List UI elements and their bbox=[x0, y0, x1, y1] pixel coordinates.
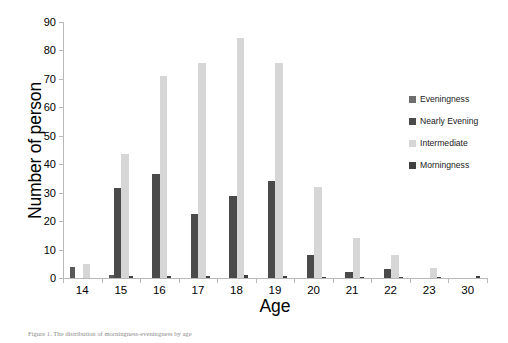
y-axis-tick-label: 30 bbox=[16, 187, 56, 199]
bar-nearly-evening bbox=[268, 181, 276, 278]
x-axis-tick bbox=[371, 278, 372, 283]
legend-item[interactable]: Eveningness bbox=[409, 88, 504, 110]
legend-label: Eveningness bbox=[420, 94, 469, 104]
x-axis-tick-label: 15 bbox=[102, 284, 141, 296]
y-axis-tick-label: 70 bbox=[16, 73, 56, 85]
bar-nearly-evening bbox=[384, 269, 392, 278]
y-axis-tick-label: 20 bbox=[16, 215, 56, 227]
bar-nearly-evening bbox=[345, 272, 353, 278]
bar-nearly-evening bbox=[191, 214, 199, 278]
bar-morningness bbox=[360, 277, 364, 278]
legend-label: Intermediate bbox=[420, 138, 468, 148]
x-axis-tick bbox=[102, 278, 103, 283]
bar-intermediate bbox=[314, 187, 322, 278]
legend-item[interactable]: Intermediate bbox=[409, 132, 504, 154]
bar-morningness bbox=[399, 277, 403, 278]
legend-swatch-icon bbox=[409, 96, 416, 103]
y-axis-tick-label: 50 bbox=[16, 130, 56, 142]
x-axis-tick bbox=[217, 278, 218, 283]
x-axis-tick bbox=[179, 278, 180, 283]
x-axis-tick bbox=[487, 278, 488, 283]
bar-group bbox=[217, 22, 256, 278]
bar-group bbox=[102, 22, 141, 278]
bar-intermediate bbox=[198, 63, 206, 278]
bar-intermediate bbox=[353, 238, 361, 278]
x-axis-tick-label: 22 bbox=[371, 284, 410, 296]
x-axis-tick bbox=[63, 278, 64, 283]
x-axis-tick bbox=[333, 278, 334, 283]
bar-group bbox=[333, 22, 372, 278]
bar-nearly-evening bbox=[229, 196, 237, 278]
x-axis-tick bbox=[448, 278, 449, 283]
y-axis-tick-label: 90 bbox=[16, 16, 56, 28]
bar-group bbox=[63, 22, 102, 278]
legend-swatch-icon bbox=[409, 162, 416, 169]
x-axis-tick-label: 14 bbox=[63, 284, 102, 296]
bar-morningness bbox=[244, 275, 248, 278]
x-axis-tick-label: 20 bbox=[294, 284, 333, 296]
bar-morningness bbox=[206, 276, 210, 278]
y-axis-tick-label: 80 bbox=[16, 44, 56, 56]
x-axis-title: Age bbox=[63, 296, 487, 317]
bar-eveningness bbox=[70, 267, 75, 278]
bar-morningness bbox=[322, 277, 326, 278]
bar-intermediate bbox=[430, 268, 438, 278]
bar-intermediate bbox=[160, 76, 168, 278]
bar-morningness bbox=[129, 276, 133, 278]
figure-caption: Figure 1. The distribution of morningnes… bbox=[28, 330, 448, 341]
x-axis-tick-label: 17 bbox=[179, 284, 218, 296]
x-axis-line bbox=[63, 278, 487, 279]
y-axis-tick-label: 40 bbox=[16, 158, 56, 170]
bar-intermediate bbox=[237, 38, 245, 278]
bar-morningness bbox=[437, 277, 441, 278]
bar-group bbox=[140, 22, 179, 278]
bar-group bbox=[371, 22, 410, 278]
bar-intermediate bbox=[83, 264, 91, 278]
legend-label: Morningness bbox=[420, 160, 469, 170]
chart-legend: EveningnessNearly EveningIntermediateMor… bbox=[409, 88, 504, 176]
x-axis-tick-label: 30 bbox=[448, 284, 487, 296]
bar-intermediate bbox=[121, 154, 129, 278]
legend-label: Nearly Evening bbox=[420, 116, 478, 126]
bar-nearly-evening bbox=[307, 255, 315, 278]
y-axis-tick-label: 10 bbox=[16, 244, 56, 256]
x-axis-tick bbox=[140, 278, 141, 283]
x-axis-tick-label: 23 bbox=[410, 284, 449, 296]
bar-nearly-evening bbox=[114, 188, 122, 278]
chart-figure: Number of person 0102030405060708090 141… bbox=[0, 0, 508, 343]
legend-swatch-icon bbox=[409, 118, 416, 125]
x-axis-tick-label: 19 bbox=[256, 284, 295, 296]
x-axis-tick-label: 18 bbox=[217, 284, 256, 296]
bar-intermediate bbox=[391, 255, 399, 278]
legend-item[interactable]: Morningness bbox=[409, 154, 504, 176]
bar-group bbox=[179, 22, 218, 278]
bar-morningness bbox=[167, 276, 171, 278]
x-axis-tick-label: 16 bbox=[140, 284, 179, 296]
bar-group bbox=[294, 22, 333, 278]
y-axis-tick-label: 0 bbox=[16, 272, 56, 284]
bar-group bbox=[256, 22, 295, 278]
legend-swatch-icon bbox=[409, 140, 416, 147]
x-axis-tick bbox=[294, 278, 295, 283]
x-axis-tick bbox=[256, 278, 257, 283]
bar-intermediate bbox=[275, 63, 283, 278]
bar-morningness bbox=[283, 276, 287, 278]
bar-morningness bbox=[476, 276, 480, 278]
y-axis-tick-label: 60 bbox=[16, 101, 56, 113]
x-axis-tick-label: 21 bbox=[333, 284, 372, 296]
bar-nearly-evening bbox=[152, 174, 160, 278]
legend-item[interactable]: Nearly Evening bbox=[409, 110, 504, 132]
x-axis-tick bbox=[410, 278, 411, 283]
